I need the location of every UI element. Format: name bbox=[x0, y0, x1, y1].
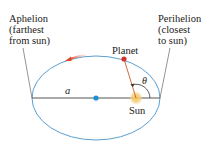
radius-line bbox=[124, 59, 136, 98]
semi-major-axis-label: a bbox=[65, 85, 70, 96]
sun-label: Sun bbox=[129, 105, 145, 116]
planet-icon bbox=[121, 56, 126, 61]
aphelion-label: Aphelion (farthest from sun) bbox=[9, 13, 50, 46]
angle-arrowhead-icon bbox=[131, 84, 135, 88]
perihelion-label: Perihelion (closest to sun) bbox=[158, 13, 201, 46]
perihelion-leader-line bbox=[160, 48, 170, 98]
arrowhead-icon bbox=[65, 57, 72, 62]
aphelion-leader-line bbox=[23, 48, 32, 98]
planet-label: Planet bbox=[112, 45, 138, 56]
center-dot bbox=[93, 95, 98, 100]
angle-label: θ bbox=[142, 75, 147, 86]
